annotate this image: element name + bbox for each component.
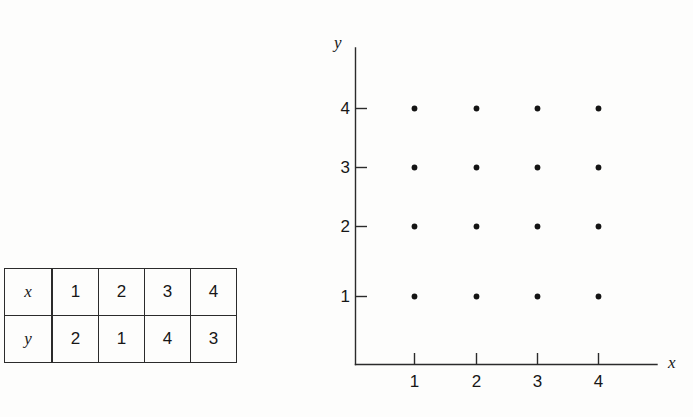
data-point-group (412, 106, 602, 300)
plot-svg: y x 4 3 2 1 1 2 3 4 (320, 20, 693, 417)
table-row-label-y: y (5, 316, 53, 363)
x-tick-label-3: 3 (533, 372, 542, 391)
table-cell-x-4: 4 (191, 269, 237, 316)
data-point (474, 106, 480, 112)
x-tick-label-2: 2 (472, 372, 481, 391)
table-row: x 1 2 3 4 (5, 269, 237, 316)
y-tick-label-1: 1 (341, 287, 350, 306)
data-point (535, 224, 541, 230)
x-axis-label: x (667, 353, 676, 372)
data-point (596, 106, 602, 112)
table-cell-y-3: 4 (145, 316, 191, 363)
y-tick-label-3: 3 (341, 158, 350, 177)
table-row: y 2 1 4 3 (5, 316, 237, 363)
data-point (412, 294, 418, 300)
y-tick-label-4: 4 (341, 99, 350, 118)
table-cell-y-4: 3 (191, 316, 237, 363)
y-tick-label-2: 2 (341, 217, 350, 236)
table-row-label-x: x (5, 269, 53, 316)
table-cell-y-1: 2 (52, 316, 99, 363)
table-cell-y-2: 1 (99, 316, 145, 363)
x-axis-ticks (415, 353, 599, 365)
y-axis-label: y (332, 33, 342, 52)
data-point (474, 165, 480, 171)
data-point (535, 165, 541, 171)
x-tick-label-4: 4 (594, 372, 603, 391)
data-point (412, 165, 418, 171)
x-tick-label-1: 1 (410, 372, 419, 391)
table-cell-x-3: 3 (145, 269, 191, 316)
scatter-plot: y x 4 3 2 1 1 2 3 4 (320, 20, 693, 417)
data-point (535, 106, 541, 112)
y-axis-ticks (356, 109, 368, 297)
table-cell-x-1: 1 (52, 269, 99, 316)
data-point (596, 224, 602, 230)
data-table: x 1 2 3 4 y 2 1 4 3 (4, 268, 237, 363)
data-point (474, 224, 480, 230)
data-point (412, 106, 418, 112)
data-point (596, 294, 602, 300)
data-point (474, 294, 480, 300)
data-point (535, 294, 541, 300)
table-cell-x-2: 2 (99, 269, 145, 316)
data-point (412, 224, 418, 230)
data-point (596, 165, 602, 171)
